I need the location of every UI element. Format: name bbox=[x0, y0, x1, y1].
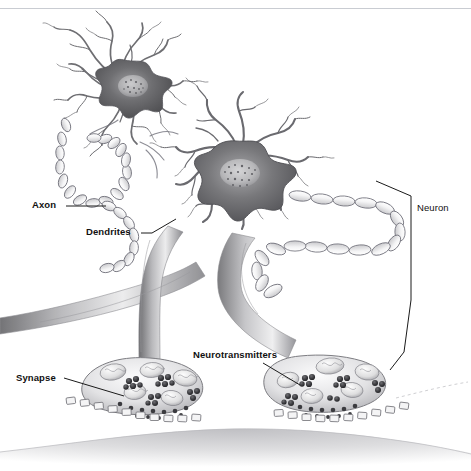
terminal-bulb-right bbox=[264, 355, 468, 422]
label-neuron: Neuron bbox=[417, 203, 449, 213]
neuron-diagram: Axon Dendrites Neurotransmitters Synapse… bbox=[0, 0, 471, 471]
upper-neuron-nucleus bbox=[118, 75, 148, 97]
terminal-bulb-left bbox=[66, 358, 203, 422]
label-synapse: Synapse bbox=[16, 373, 56, 383]
main-neuron-nucleus bbox=[220, 159, 260, 187]
main-neuron bbox=[150, 78, 334, 229]
axon-trunk-far-left bbox=[0, 262, 205, 334]
illustration-canvas bbox=[0, 0, 471, 471]
label-neurotransmitters: Neurotransmitters bbox=[193, 350, 277, 360]
label-dendrites: Dendrites bbox=[86, 227, 131, 237]
label-axon: Axon bbox=[32, 200, 56, 210]
postsynaptic-cell bbox=[0, 429, 471, 471]
upper-neuron bbox=[43, 11, 208, 156]
axon-trunks bbox=[0, 226, 296, 362]
